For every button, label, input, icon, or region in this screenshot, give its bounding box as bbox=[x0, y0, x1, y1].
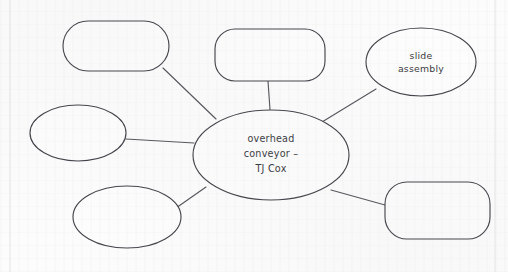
node-slide-assembly-label-line1: slide bbox=[410, 50, 433, 61]
mind-map-svg: slide assembly overhead conveyor – TJ Co… bbox=[0, 0, 508, 272]
edge-top-left-to-central bbox=[163, 68, 216, 119]
edge-bottom-left-to-central bbox=[176, 187, 206, 208]
edge-top-center-to-central bbox=[268, 81, 270, 110]
node-bottom-right[interactable] bbox=[385, 182, 490, 239]
node-bottom-right-shape[interactable] bbox=[385, 182, 490, 239]
edge-left-to-central bbox=[126, 139, 194, 143]
diagram-canvas: slide assembly overhead conveyor – TJ Co… bbox=[0, 0, 508, 272]
node-top-left[interactable] bbox=[63, 21, 169, 71]
node-central[interactable]: overhead conveyor – TJ Cox bbox=[193, 110, 349, 200]
edge-slide-assembly-to-central bbox=[322, 89, 376, 122]
node-central-label-line1: overhead bbox=[247, 133, 294, 144]
node-slide-assembly[interactable]: slide assembly bbox=[366, 28, 476, 96]
node-left[interactable] bbox=[30, 105, 126, 161]
edge-bottom-right-to-central bbox=[331, 190, 385, 205]
node-top-center-shape[interactable] bbox=[215, 29, 325, 81]
node-slide-assembly-label-line2: assembly bbox=[398, 63, 444, 74]
node-central-label-line3: TJ Cox bbox=[254, 163, 286, 174]
node-top-left-shape[interactable] bbox=[63, 21, 169, 71]
node-central-label-line2: conveyor – bbox=[244, 148, 299, 159]
node-bottom-left-shape[interactable] bbox=[73, 186, 181, 248]
node-left-shape[interactable] bbox=[30, 105, 126, 161]
node-bottom-left[interactable] bbox=[73, 186, 181, 248]
node-slide-assembly-shape[interactable] bbox=[366, 28, 476, 96]
node-top-center[interactable] bbox=[215, 29, 325, 81]
